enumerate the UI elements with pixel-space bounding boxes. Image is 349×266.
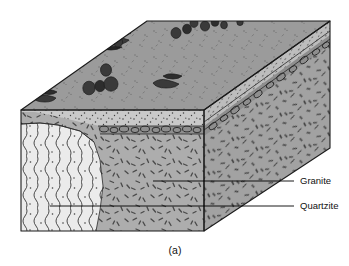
- front-face: [21, 110, 204, 231]
- cobble-contact-front: [98, 126, 204, 134]
- quartzite-label-text: Quartzite: [300, 200, 339, 211]
- figure-container: Granite Quartzite (a): [0, 0, 349, 266]
- figure-caption: (a): [169, 244, 182, 256]
- geologic-block-diagram: Granite Quartzite (a): [0, 0, 349, 266]
- granite-label-text: Granite: [300, 175, 331, 186]
